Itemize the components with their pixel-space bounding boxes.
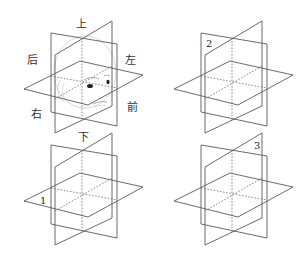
label-bottom: 下 (78, 131, 89, 144)
panel-head-reference: 上 下 后 左 右 前 (24, 18, 143, 144)
label-front: 前 (127, 100, 138, 114)
plane-number-label: 2 (206, 38, 212, 49)
label-right: 右 (31, 107, 42, 121)
panel-plane-3: 3 (174, 133, 293, 245)
label-back: 后 (27, 54, 38, 67)
plane-number-label: 1 (40, 195, 46, 206)
panel-plane-2: 2 (174, 21, 293, 133)
orthogonal-planes (174, 133, 293, 245)
eye-icon (87, 84, 93, 88)
orthogonal-planes (174, 21, 293, 133)
label-top: 上 (76, 18, 87, 31)
label-left: 左 (125, 54, 136, 67)
eye-icon (106, 80, 109, 84)
head-illustration (54, 36, 116, 108)
plane-number-label: 3 (254, 140, 260, 151)
three-planes-diagram: 上 下 后 左 右 前 2 1 3 (0, 0, 307, 262)
orthogonal-planes (24, 133, 143, 245)
panel-plane-1: 1 (24, 133, 143, 245)
